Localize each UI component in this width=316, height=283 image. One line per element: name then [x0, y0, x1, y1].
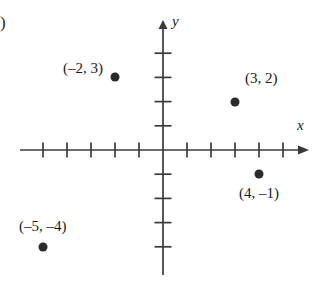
- point-label: (–2, 3): [63, 61, 103, 76]
- plotted-point: [111, 73, 120, 82]
- x-axis-label: x: [297, 118, 304, 133]
- point-label: (–5, –4): [19, 219, 67, 234]
- coordinate-plane-figure: ) (–2, 3)(3, 2)(4, –1)(–5, –4) x y: [0, 0, 316, 283]
- point-label: (4, –1): [239, 186, 279, 201]
- plotted-point: [255, 170, 264, 179]
- y-axis-label: y: [172, 14, 179, 29]
- axes-and-ticks: [0, 0, 316, 283]
- plotted-point: [231, 97, 240, 106]
- plotted-point: [39, 242, 48, 251]
- point-label: (3, 2): [245, 71, 278, 86]
